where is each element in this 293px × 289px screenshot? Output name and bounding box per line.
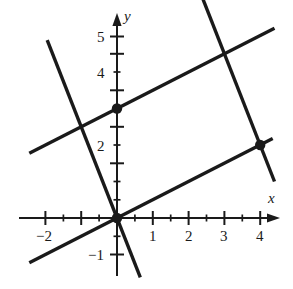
plot-canvas	[0, 0, 293, 289]
steep-line-right	[201, 0, 274, 182]
y-axis-arrowhead	[112, 13, 121, 26]
coordinate-plane-figure: −2 1 2 3 4 5 4 2 −1 x y	[0, 0, 293, 289]
y-tick-label-2: 2	[97, 139, 105, 154]
steep-line-left	[47, 40, 140, 277]
y-intercept-point	[112, 103, 122, 113]
y-tick-label-5: 5	[97, 30, 105, 45]
shallow-line-lower	[29, 139, 272, 263]
x-tick-label-2: 2	[185, 229, 193, 244]
x-axis-arrowhead	[267, 213, 280, 222]
y-tick-label-4: 4	[97, 66, 105, 81]
x-tick-label-1: 1	[149, 229, 157, 244]
origin-point	[112, 213, 122, 223]
y-tick-label-neg1: −1	[88, 248, 104, 263]
x-tick-label-neg2: −2	[36, 229, 52, 244]
x-tick-label-3: 3	[220, 229, 228, 244]
vertex-point	[255, 140, 265, 150]
x-tick-label-4: 4	[256, 229, 264, 244]
x-axis-label: x	[268, 191, 275, 206]
y-axis-label: y	[124, 9, 131, 24]
point-group	[112, 103, 266, 223]
